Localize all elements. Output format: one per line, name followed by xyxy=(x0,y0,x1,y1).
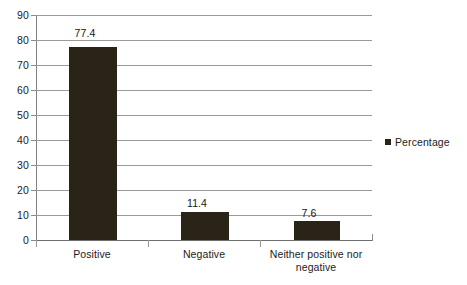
category-label-negative: Negative xyxy=(148,248,260,261)
category-label-neither-positive-nor-negative: Neither positive nor negative xyxy=(260,248,372,274)
bar-value-positive: 77.4 xyxy=(45,28,125,39)
category-tick-2 xyxy=(260,240,261,247)
category-label-neither-line-2: negative xyxy=(296,261,337,273)
y-axis-label-60: 60 xyxy=(3,85,29,96)
bar-neither-positive-nor-negative[interactable] xyxy=(294,221,340,240)
y-axis-label-20: 20 xyxy=(3,185,29,196)
bar-value-neither-positive-nor-negative: 7.6 xyxy=(269,208,349,219)
bar-negative[interactable] xyxy=(181,212,229,241)
y-axis-label-80: 80 xyxy=(3,35,29,46)
y-axis-label-0: 0 xyxy=(3,235,29,246)
bar-value-negative: 11.4 xyxy=(157,198,237,209)
bar-positive[interactable] xyxy=(69,47,117,241)
y-axis-label-40: 40 xyxy=(3,135,29,146)
legend: Percentage xyxy=(385,137,450,148)
gridline-90 xyxy=(36,15,372,16)
category-label-positive: Positive xyxy=(36,248,148,261)
category-tick-left xyxy=(36,240,37,247)
bar-chart: 90 80 70 60 50 40 30 20 10 0 xyxy=(0,0,467,285)
y-axis-label-10: 10 xyxy=(3,210,29,221)
category-label-positive-line-1: Positive xyxy=(73,248,111,260)
y-axis-labels: 90 80 70 60 50 40 30 20 10 0 xyxy=(0,0,29,285)
legend-label-percentage: Percentage xyxy=(395,137,450,148)
gridline-80 xyxy=(36,40,372,41)
y-axis-label-50: 50 xyxy=(3,110,29,121)
legend-swatch-percentage-icon xyxy=(385,139,391,145)
y-axis-label-90: 90 xyxy=(3,10,29,21)
category-tick-right xyxy=(372,234,373,241)
category-label-negative-line-1: Negative xyxy=(183,248,225,260)
category-label-neither-line-1: Neither positive nor xyxy=(270,248,362,260)
category-tick-1 xyxy=(148,240,149,247)
y-axis-label-70: 70 xyxy=(3,60,29,71)
y-axis-label-30: 30 xyxy=(3,160,29,171)
gridline-0-baseline xyxy=(36,240,372,241)
